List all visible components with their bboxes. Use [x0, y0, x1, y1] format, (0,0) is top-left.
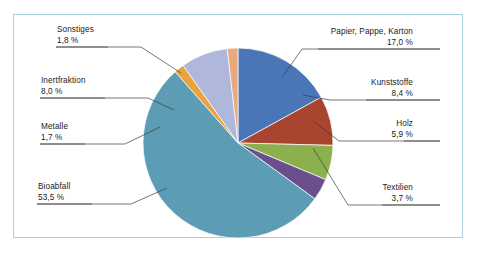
pie-label-sonstiges: Sonstiges 1,8 % — [57, 25, 94, 46]
pie-label-textilien-value: 3,7 % — [383, 194, 413, 205]
pie-label-kunststoffe-name: Kunststoffe — [371, 78, 413, 89]
pie-label-bioabfall-value: 53,5 % — [38, 193, 70, 204]
pie-label-metalle-value: 1,7 % — [41, 133, 68, 144]
pie-label-holz-name: Holz — [392, 119, 413, 130]
pie-label-inertfraktion: Inertfraktion 8,0 % — [41, 76, 86, 97]
leader-line-sonstiges — [56, 47, 181, 73]
pie-label-papier-pappe-karton-value: 17,0 % — [331, 38, 413, 49]
pie-label-papier-pappe-karton: Papier, Pappe, Karton 17,0 % — [331, 27, 413, 48]
pie-label-sonstiges-name: Sonstiges — [57, 25, 94, 36]
pie-label-holz-value: 5,9 % — [392, 130, 413, 141]
pie-label-inertfraktion-value: 8,0 % — [41, 87, 86, 98]
pie-label-metalle: Metalle 1,7 % — [41, 122, 68, 143]
chart-figure: Sonstiges 1,8 % Inertfraktion 8,0 % Meta… — [0, 0, 477, 259]
pie-label-bioabfall-name: Bioabfall — [38, 182, 70, 193]
pie-label-metalle-name: Metalle — [41, 122, 68, 133]
pie-label-kunststoffe: Kunststoffe 8,4 % — [371, 78, 413, 99]
pie-label-inertfraktion-name: Inertfraktion — [41, 76, 86, 87]
pie-slices — [143, 48, 333, 238]
pie-label-textilien-name: Textilien — [383, 183, 413, 194]
pie-label-papier-pappe-karton-name: Papier, Pappe, Karton — [331, 27, 413, 38]
pie-label-sonstiges-value: 1,8 % — [57, 36, 94, 47]
pie-label-bioabfall: Bioabfall 53,5 % — [38, 182, 70, 203]
pie-label-holz: Holz 5,9 % — [392, 119, 413, 140]
pie-label-textilien: Textilien 3,7 % — [383, 183, 413, 204]
leader-line-papier-pappe-karton — [283, 49, 440, 76]
pie-label-kunststoffe-value: 8,4 % — [371, 89, 413, 100]
